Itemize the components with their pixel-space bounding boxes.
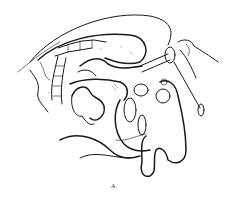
abdominal-wall-outline (30, 15, 171, 62)
figure-caption: A (0, 182, 227, 190)
perineum-outline (141, 81, 186, 177)
anatomical-illustration (0, 0, 227, 201)
internal-structure-1 (134, 84, 148, 96)
sacrum (52, 56, 58, 100)
vaginal-canal (70, 79, 127, 100)
instrument-handle (174, 62, 200, 108)
line-drawing (0, 0, 227, 201)
hand-outline (178, 40, 218, 62)
